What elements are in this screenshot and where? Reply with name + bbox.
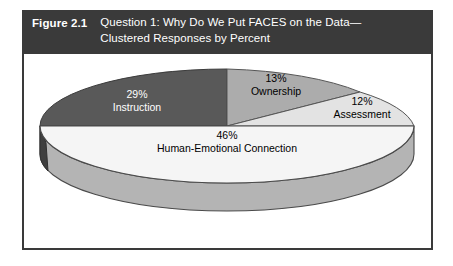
slice-name-instruction: Instruction bbox=[113, 101, 162, 113]
chart-panel: 29% Instruction 13% Ownership 12% Assess… bbox=[22, 54, 433, 250]
slice-percent-ownership: 13% bbox=[265, 72, 286, 84]
figure-number-label: Figure 2.1 bbox=[32, 15, 87, 31]
figure-title: Question 1: Why Do We Put FACES on the D… bbox=[100, 15, 361, 46]
pie-chart-3d: 29% Instruction 13% Ownership 12% Assess… bbox=[24, 54, 431, 246]
slice-name-assessment: Assessment bbox=[333, 108, 390, 120]
figure-title-line-1: Question 1: Why Do We Put FACES on the D… bbox=[100, 16, 361, 28]
figure-title-line-2: Clustered Responses by Percent bbox=[100, 31, 361, 47]
figure-header: Figure 2.1 Question 1: Why Do We Put FAC… bbox=[22, 10, 433, 54]
slice-percent-assessment: 12% bbox=[351, 95, 372, 107]
figure-container: Figure 2.1 Question 1: Why Do We Put FAC… bbox=[0, 0, 453, 266]
slice-percent-instruction: 29% bbox=[126, 88, 147, 100]
slice-percent-human-emotional-connection: 46% bbox=[216, 129, 237, 141]
slice-name-human-emotional-connection: Human-Emotional Connection bbox=[157, 142, 297, 154]
slice-name-ownership: Ownership bbox=[251, 85, 301, 97]
